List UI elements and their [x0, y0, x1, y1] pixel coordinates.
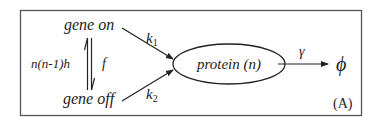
panel-label: (A): [333, 96, 353, 112]
rate-on-off-label: n(n-1)h: [31, 56, 70, 71]
k1-label: k1: [146, 30, 158, 48]
k2-label: k2: [146, 86, 158, 104]
gene-off-label: gene off: [63, 90, 117, 108]
protein-label: protein (n): [196, 56, 261, 73]
gene-on-label: gene on: [64, 16, 114, 34]
reversible-harpoon-icon: [85, 38, 95, 90]
gamma-label: γ: [299, 44, 305, 59]
sink-phi-label: ϕ: [336, 53, 346, 76]
rate-off-on-label: f: [102, 56, 108, 71]
reaction-diagram: gene on gene off n(n-1)h f k1 k2 protein…: [0, 0, 377, 122]
